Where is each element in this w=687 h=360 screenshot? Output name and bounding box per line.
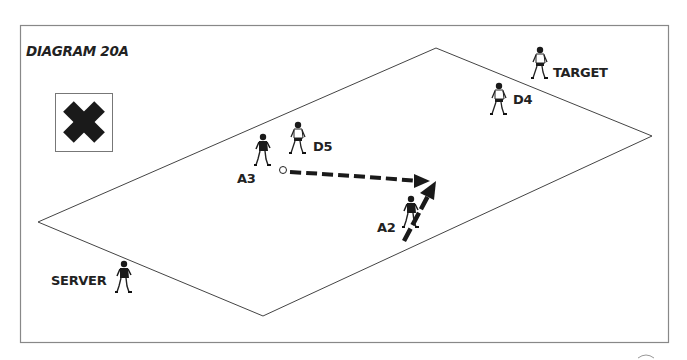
playing-field — [38, 48, 652, 316]
ball-icon — [280, 167, 287, 174]
label-d4: D4 — [513, 92, 532, 107]
label-a3: A3 — [237, 171, 256, 186]
player-d5-figure — [289, 122, 306, 153]
label-a2: A2 — [377, 220, 396, 235]
player-d4-figure — [490, 83, 507, 114]
x-cross-icon — [53, 91, 115, 153]
player-a3-figure — [254, 134, 271, 165]
pass-arrow-icon — [290, 172, 430, 188]
page-mark — [638, 355, 654, 358]
label-server: SERVER — [51, 273, 106, 288]
label-target: TARGET — [553, 65, 608, 80]
player-server-figure — [115, 261, 132, 292]
label-d5: D5 — [313, 139, 332, 154]
player-target-figure — [531, 47, 548, 78]
diagram-title: DIAGRAM 20A — [26, 43, 129, 59]
